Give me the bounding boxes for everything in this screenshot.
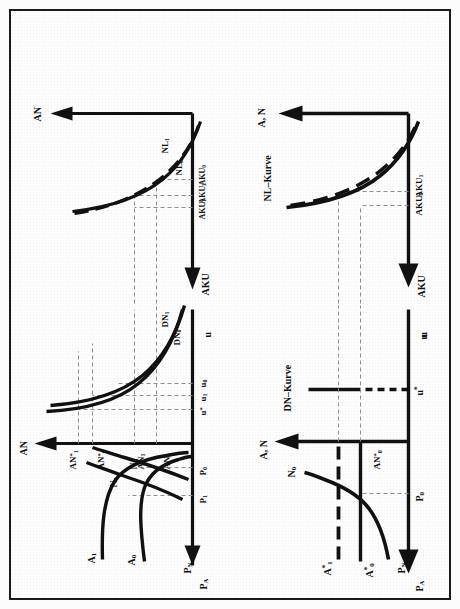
tick-label-aku0: AKU0 [198,165,207,186]
level-label-an-star-0: AN*0 [96,450,107,469]
curve-label-a0: A0 [126,554,138,565]
figure-page: PA PN AN u A1 A0 N1 [0,0,460,609]
curve-label-n1: N1 [108,476,120,487]
tick-label-u0: u0 [198,379,208,387]
tick-label-u-star-simple: u* [414,386,424,395]
curve-label-nl-kurve: NL–Kurve [262,155,272,201]
axis-label-a-n: A, N [258,440,268,459]
tick-label-aku2: AKU2 [198,183,207,204]
figure-outer-border: PA PN AN u A1 A0 N1 [9,9,451,600]
curve-label-nl1: NL1 [160,137,170,153]
level-label-an-star-0-simple: AN*0 [372,450,383,469]
curve-label-a1: A1 [86,552,98,563]
level-label-a-star-1-simple: A*1 [322,561,334,575]
rotated-figure-canvas: PA PN AN u A1 A0 N1 [10,10,450,599]
panel-lower-left-svg [16,303,228,595]
axis-label-u-top-right: u [418,333,428,339]
tick-label-p0: P0 [198,466,208,475]
axis-group [274,309,418,573]
axis-label-pa: PA [198,578,210,589]
axis-label-aku: AKU [200,273,210,295]
level-label-a-star-0-simple: A*0 [364,563,376,577]
panel-lower-right-svg [16,15,228,303]
curve-n0-simple [304,472,388,559]
axis-label-u: u [202,331,212,337]
axis-label-an-right: AN [32,107,42,121]
axis-label-a-n-right: A, N [256,108,266,127]
axis-group [278,105,418,287]
panel-lower-left: PA PN AN u A1 A0 N1 [16,303,228,595]
tick-label-p0-simple: P0 [414,491,426,501]
axis-label-an: AN [18,441,28,455]
tick-label-aku1-simple: AKU1 [414,174,424,197]
curve-label-dn0: DN0 [172,329,182,345]
panel-lower-right: AKU AN AKU1 AKU2 AKU0 NL0 NL1 [16,15,228,303]
axis-group [50,106,200,289]
curve-label-nl0: NL0 [174,159,184,175]
curve-label-dn1: DN1 [160,311,170,327]
curve-nl-kurve-solid [286,121,418,207]
axis-label-aku-simple: AKU [416,275,426,297]
tick-label-u1: u1 [198,393,208,401]
tick-label-u-star: u* [198,407,208,415]
level-label-an-0: AN0 [162,453,172,469]
curve-label-dn-kurve: DN–Kurve [282,364,292,411]
panel-upper-left: PA PN A, N u N0 DN–Kurve A*1 [232,303,444,595]
tick-label-p1: P1 [198,494,208,503]
axis-label-pn-simple: PN [396,562,408,573]
panel-upper-right: AKU A, N u NL–Kurve AKU0 AKU1 [232,15,444,303]
curve-label-n0-simple: N0 [286,466,298,477]
guide-lines [134,179,192,303]
axis-label-pn: PN [182,562,194,573]
guide-lines [338,191,408,303]
level-label-an-1: AN1 [136,453,146,469]
axis-label-pa-simple: PA [414,580,426,591]
level-label-an-star-1: AN*1 [68,450,79,469]
axis-group [34,309,200,565]
